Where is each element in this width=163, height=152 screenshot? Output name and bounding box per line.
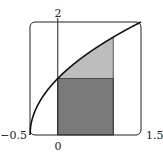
x-left-tick-label: −0.5: [0, 129, 27, 142]
x-right-tick-label: 1.5: [146, 129, 163, 142]
dark-shaded-rectangle: [58, 79, 114, 136]
light-shaded-region: [58, 37, 114, 78]
function-plot: 2 −0.5 1.5 0: [0, 0, 163, 152]
x-origin-tick-label: 0: [55, 140, 62, 152]
y-top-tick-label: 2: [55, 7, 62, 20]
